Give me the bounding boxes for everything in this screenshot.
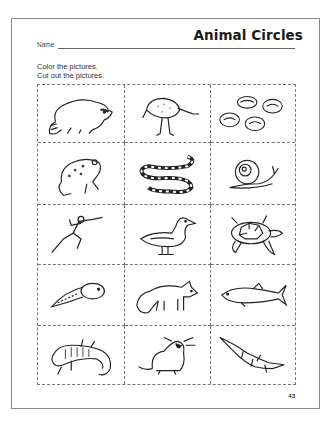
mole-icon [129,329,207,381]
page-number: 43 [288,393,295,399]
emu-icon [129,88,207,140]
cell-salamander [38,326,125,384]
clams-icon [214,88,292,140]
cell-alligator [211,326,295,384]
duck-icon [129,209,207,261]
snail-icon [214,148,292,200]
cell-mole [125,326,211,384]
cell-frog [38,143,125,205]
raccoon-icon [42,88,120,140]
cell-tadpole [38,265,125,326]
cell-snail [211,143,295,205]
tadpole-icon [42,269,120,321]
cell-duck [125,205,211,265]
frog-icon [42,148,120,200]
cell-turtle [211,205,295,265]
cell-snake [125,143,211,205]
instruction-cut: Cut out the pictures. [37,71,104,80]
snake-icon [129,148,207,200]
cell-runner [38,205,125,265]
name-label: Name [37,41,54,48]
runner-icon [42,209,120,261]
turtle-icon [214,209,292,261]
cutout-grid [37,84,296,385]
name-write-line [58,48,295,49]
cell-fox [125,265,211,326]
cell-fish [211,265,295,326]
alligator-icon [214,329,292,381]
name-field-row: Name [37,41,295,51]
cell-emu [125,85,211,143]
salamander-icon [42,329,120,381]
fox-icon [129,269,207,321]
instruction-color: Color the pictures. [37,62,104,71]
cell-raccoon [38,85,125,143]
fish-icon [214,269,292,321]
cell-clams [211,85,295,143]
instructions: Color the pictures. Cut out the pictures… [37,62,104,80]
